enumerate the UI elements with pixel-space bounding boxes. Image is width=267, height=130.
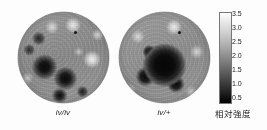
colorbar-tick: 1.0 <box>232 80 242 87</box>
node-marker-icon <box>74 31 77 34</box>
panel-iv-iv: iv/iv <box>16 12 110 124</box>
colorbar: 3.5 3.0 2.5 2.0 1.5 1.0 0.5 相対強度 <box>219 12 265 124</box>
disk-edge-shading <box>119 12 210 103</box>
colorbar-tick: 3.0 <box>232 24 242 31</box>
node-marker-icon <box>178 31 181 34</box>
colorbar-gradient <box>219 12 232 104</box>
intensity-map-iv-plus <box>119 12 210 103</box>
colorbar-tick: 2.5 <box>232 38 242 45</box>
colorbar-tick: 1.5 <box>232 66 242 73</box>
disk-edge-shading <box>18 12 109 103</box>
panel-iv-plus: iv/+ <box>117 12 211 124</box>
colorbar-tick: 0.5 <box>232 94 242 101</box>
colorbar-tick: 3.5 <box>232 10 242 17</box>
panel-label-iv-iv: iv/iv <box>16 108 110 117</box>
colorbar-tick-labels: 3.5 3.0 2.5 2.0 1.5 1.0 0.5 <box>232 12 258 102</box>
intensity-map-iv-iv <box>18 12 109 103</box>
colorbar-tick: 2.0 <box>232 52 242 59</box>
colorbar-title: 相対強度 <box>215 107 251 119</box>
figure-canvas: iv/iv iv/+ 3.5 3.0 2.5 2.0 1.5 1.0 0.5 相… <box>0 0 267 130</box>
panel-label-iv-plus: iv/+ <box>117 108 211 117</box>
